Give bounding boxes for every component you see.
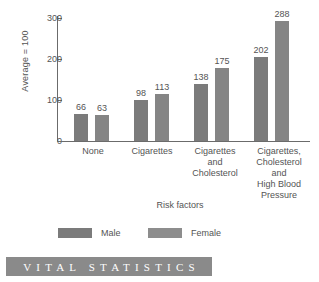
x-category-label-cigarettes-cholesterol-bp: Cigarettes, Cholesterol and High Blood P…: [245, 146, 313, 201]
y-tick-label-200: 200: [28, 54, 62, 64]
banner-text: VITAL STATISTICS: [18, 261, 200, 273]
bar-group-none: 66 63: [70, 16, 118, 141]
legend-item-female[interactable]: Female: [148, 226, 221, 240]
bar-value-female-cigarettes-cholesterol: 175: [214, 56, 229, 66]
bar-male-cigarettes-cholesterol[interactable]: 138: [194, 84, 208, 142]
x-category-label-cigarettes: Cigarettes: [118, 146, 186, 157]
bar-female-none[interactable]: 63: [95, 115, 109, 141]
y-tick-group-100: 100: [0, 100, 62, 101]
bar-group-cigarettes-cholesterol-bp: 202 288: [250, 16, 298, 141]
bar-value-female-cigarettes: 113: [155, 82, 169, 92]
legend-label-female: Female: [191, 228, 221, 238]
bar-value-male-cigarettes-cholesterol: 138: [193, 72, 208, 82]
x-category-label-cigarettes-cholesterol: Cigarettes and Cholesterol: [181, 146, 249, 179]
vital-statistics-banner: VITAL STATISTICS: [6, 257, 212, 276]
plot-area: 66 63 98 113 138 175 202: [58, 16, 310, 141]
y-tick-group-300: 300: [0, 18, 62, 19]
bar-female-cigarettes-cholesterol-bp[interactable]: 288: [275, 21, 289, 141]
bar-value-male-none: 66: [76, 102, 86, 112]
legend-swatch-female-icon: [148, 228, 182, 238]
bar-male-none[interactable]: 66: [74, 114, 88, 142]
legend-swatch-male-icon: [58, 228, 92, 238]
vital-statistics-bar-chart: Average = 100 0 100 200 300 66 63 98: [0, 0, 319, 282]
bar-female-cigarettes-cholesterol[interactable]: 175: [215, 68, 229, 141]
bar-value-male-cigarettes-cholesterol-bp: 202: [253, 45, 268, 55]
y-tick-label-100: 100: [28, 95, 62, 105]
bar-female-cigarettes[interactable]: 113: [155, 94, 169, 141]
y-tick-group-0: 0: [0, 141, 62, 142]
bar-male-cigarettes-cholesterol-bp[interactable]: 202: [254, 57, 268, 141]
x-axis-title: Risk factors: [120, 200, 240, 210]
legend-label-male: Male: [101, 228, 121, 238]
x-category-label-none: None: [62, 146, 124, 157]
y-tick-group-200: 200: [0, 59, 62, 60]
legend-item-male[interactable]: Male: [58, 226, 121, 240]
y-tick-label-300: 300: [28, 13, 62, 23]
bar-value-male-cigarettes: 98: [136, 88, 146, 98]
bar-male-cigarettes[interactable]: 98: [134, 100, 148, 141]
chart-legend: Male Female: [58, 226, 288, 240]
bar-group-cigarettes: 98 113: [130, 16, 178, 141]
bar-value-female-cigarettes-cholesterol-bp: 288: [274, 9, 289, 19]
bar-group-cigarettes-cholesterol: 138 175: [190, 16, 238, 141]
bar-value-female-none: 63: [97, 103, 107, 113]
x-axis-line: [57, 141, 310, 142]
